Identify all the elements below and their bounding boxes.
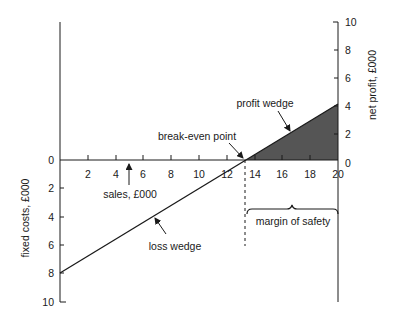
profit-wedge-label: profit wedge xyxy=(236,97,293,109)
x-tick: 12 xyxy=(221,168,233,180)
right-tick: 8 xyxy=(345,44,351,56)
left-tick: 6 xyxy=(48,239,54,251)
net-profit-axis-title: net profit, £000 xyxy=(366,50,378,120)
right-tick: 0 xyxy=(345,157,351,169)
x-tick: 4 xyxy=(113,168,119,180)
x-tick: 20 xyxy=(332,168,344,180)
break-even-label: break-even point xyxy=(158,130,236,142)
profit-wedge-arrow xyxy=(278,111,290,131)
right-tick: 6 xyxy=(345,72,351,84)
margin-of-safety-label: margin of safety xyxy=(256,215,331,227)
left-tick: 2 xyxy=(48,182,54,194)
x-tick: 8 xyxy=(168,168,174,180)
margin-of-safety-brace xyxy=(247,205,338,214)
loss-wedge-arrow xyxy=(155,218,166,234)
loss-wedge-label: loss wedge xyxy=(149,240,202,252)
left-origin-label: 0 xyxy=(48,154,54,166)
break-even-chart: 2 4 6 8 10 12 14 16 18 20 0 2 4 6 8 10 0… xyxy=(0,0,397,324)
x-tick: 14 xyxy=(249,168,261,180)
right-tick: 2 xyxy=(345,128,351,140)
sales-axis-label: sales, £000 xyxy=(103,188,157,200)
fixed-costs-axis-title: fixed costs, £000 xyxy=(19,178,31,257)
right-tick: 4 xyxy=(345,100,351,112)
x-tick: 10 xyxy=(193,168,205,180)
left-tick: 4 xyxy=(48,211,54,223)
x-tick: 18 xyxy=(304,168,316,180)
left-tick: 8 xyxy=(48,267,54,279)
x-tick: 6 xyxy=(140,168,146,180)
x-tick: 2 xyxy=(85,168,91,180)
left-tick: 10 xyxy=(42,296,54,308)
break-even-arrow xyxy=(229,143,243,158)
x-tick: 16 xyxy=(276,168,288,180)
right-tick: 10 xyxy=(345,16,357,28)
